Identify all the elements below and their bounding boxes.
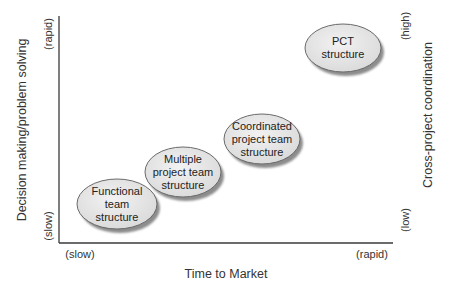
node-line: Multiple bbox=[153, 153, 214, 166]
node-line: Functional bbox=[92, 185, 143, 198]
node-line: project team bbox=[153, 166, 214, 179]
node-line: project team bbox=[232, 133, 293, 146]
y-axis-left-title: Decision making/problem solving bbox=[15, 39, 29, 222]
y-axis-right-title: Cross-project coordination bbox=[421, 42, 435, 188]
node-pct-label: PCT structure bbox=[322, 35, 365, 61]
x-axis-title: Time to Market bbox=[185, 267, 268, 281]
node-coordinated-label: Coordinated project team structure bbox=[232, 120, 293, 159]
x-axis-low-label: (slow) bbox=[65, 248, 94, 260]
y-axis-right-high-label: (high) bbox=[399, 12, 411, 40]
node-multiple-label: Multiple project team structure bbox=[153, 153, 214, 192]
y-axis-left-high-label: (rapid) bbox=[42, 18, 54, 50]
node-line: structure bbox=[232, 146, 293, 159]
node-line: structure bbox=[92, 211, 143, 224]
node-line: structure bbox=[153, 179, 214, 192]
node-line: PCT bbox=[322, 35, 365, 48]
node-line: structure bbox=[322, 48, 365, 61]
y-axis-left-low-label: (slow) bbox=[42, 211, 54, 240]
node-functional-label: Functional team structure bbox=[92, 185, 143, 224]
node-line: team bbox=[92, 198, 143, 211]
positioning-diagram: Functional team structure Multiple proje… bbox=[0, 0, 453, 285]
y-axis-right-low-label: (low) bbox=[399, 208, 411, 232]
x-axis-high-label: (rapid) bbox=[356, 248, 388, 260]
diagram-graphics bbox=[0, 0, 453, 285]
node-line: Coordinated bbox=[232, 120, 293, 133]
